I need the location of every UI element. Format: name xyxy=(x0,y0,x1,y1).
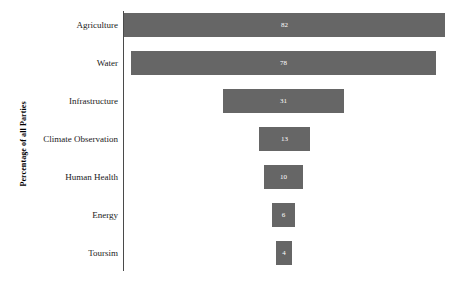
bar-row: Human Health10 xyxy=(0,163,452,191)
category-label-infrastructure: Infrastructure xyxy=(0,87,118,115)
bar-value-label: 31 xyxy=(280,98,287,105)
bar-value-label: 82 xyxy=(281,22,288,29)
bar-energy: 6 xyxy=(272,203,295,227)
bar-agriculture: 82 xyxy=(124,13,445,37)
bar-row: Water78 xyxy=(0,49,452,77)
bar-water: 78 xyxy=(131,51,436,75)
bar-row: Climate Observation13 xyxy=(0,125,452,153)
chart-container: Percentage of all Parties Agriculture82W… xyxy=(0,0,452,288)
bar-value-label: 10 xyxy=(280,174,287,181)
bar-value-label: 6 xyxy=(282,212,286,219)
category-label-water: Water xyxy=(0,49,118,77)
bar-human-health: 10 xyxy=(264,165,303,189)
category-label-human-health: Human Health xyxy=(0,163,118,191)
bar-row: Agriculture82 xyxy=(0,11,452,39)
bar-row: Infrastructure31 xyxy=(0,87,452,115)
bar-row: Toursim4 xyxy=(0,239,452,267)
bar-value-label: 13 xyxy=(281,136,288,143)
category-label-climate-observation: Climate Observation xyxy=(0,125,118,153)
bar-toursim: 4 xyxy=(276,241,292,265)
bar-row: Energy6 xyxy=(0,201,452,229)
bar-value-label: 4 xyxy=(282,250,286,257)
category-label-agriculture: Agriculture xyxy=(0,11,118,39)
bar-climate-observation: 13 xyxy=(259,127,310,151)
category-label-energy: Energy xyxy=(0,201,118,229)
bar-value-label: 78 xyxy=(280,60,287,67)
category-label-toursim: Toursim xyxy=(0,239,118,267)
bar-infrastructure: 31 xyxy=(223,89,344,113)
bar-rows: Agriculture82Water78Infrastructure31Clim… xyxy=(0,11,452,273)
